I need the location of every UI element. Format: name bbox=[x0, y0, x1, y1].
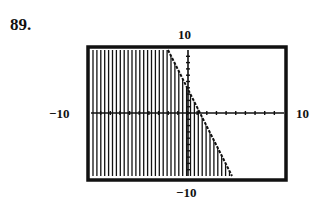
calculator-graph bbox=[0, 0, 319, 204]
